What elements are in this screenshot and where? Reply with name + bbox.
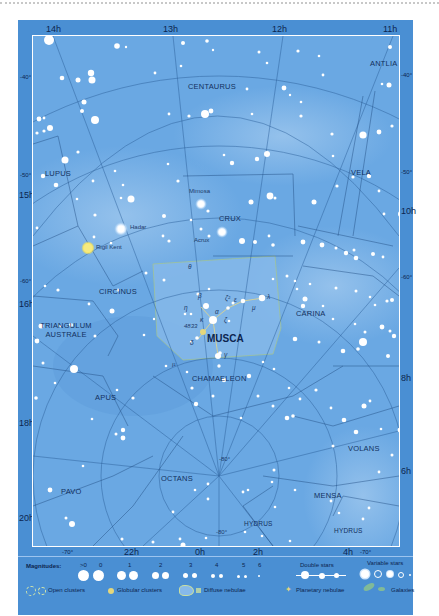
variable-star-icon-2 (374, 570, 382, 578)
variable-star-icon-5 (409, 574, 411, 576)
ra-label: 12h (272, 24, 287, 34)
ra-tick-12h: 12h (272, 24, 287, 34)
mag-dot-1b (129, 571, 138, 580)
constellation-mensa: MENSA (314, 491, 342, 500)
diffuse-nebula-icon-small (196, 588, 201, 593)
legend-mag-5: 5 (242, 562, 245, 568)
dec-tick-right-40: -40° (401, 72, 412, 78)
dec-tick-left-40: -40° (20, 74, 31, 80)
globular-cluster-icon (108, 588, 114, 594)
legend-open-clusters: Open clusters (48, 587, 85, 593)
dec-80-center: -80° (219, 456, 230, 462)
mag-dot-4b (219, 574, 223, 578)
legend-mag-0: 0 (99, 562, 102, 568)
ra-tick-6h: 6h (401, 466, 411, 476)
musca-zeta2: ζ² (225, 294, 230, 301)
dec-tick-bottom-right-70: -70° (360, 549, 371, 555)
double-star-dot-3 (334, 573, 339, 578)
open-cluster-icon (26, 586, 36, 596)
musca-alpha: α (215, 308, 219, 315)
dec-tick-left-50: -50° (20, 172, 31, 178)
legend-mag-4: 4 (215, 562, 218, 568)
legend-mag-gt0: >0 (80, 562, 87, 568)
constellation-antlia: ANTLIA (370, 59, 397, 68)
legend-mag-6: 6 (258, 562, 261, 568)
constellation-octans: OCTANS (161, 474, 193, 483)
mag-dot-3b (192, 573, 197, 578)
ngc-4833-label: 4833 (184, 323, 197, 329)
variable-star-icon-4 (398, 572, 404, 578)
dec-tick-bottom-left-70: -70° (62, 549, 73, 555)
ra-label: 14h (46, 24, 61, 34)
legend-galaxies: Galaxies (391, 587, 414, 593)
constellation-volans: VOLANS (348, 444, 380, 453)
star-label-mimosa: Mimosa (189, 188, 210, 194)
musca-beta: β (198, 292, 202, 299)
dec-tick-right-50: -50° (401, 169, 412, 175)
constellation-apus: APUS (95, 393, 116, 402)
legend-diffuse-nebulae: Diffuse nebulae (204, 587, 246, 593)
legend-mag-3: 3 (189, 562, 192, 568)
variable-star-icon-3 (387, 571, 393, 577)
musca-eta: η (184, 304, 188, 311)
constellation-hydrus-1: HYDRUS (244, 520, 273, 527)
musca-gamma: γ (224, 351, 227, 358)
constellation-carina: CARINA (296, 309, 326, 318)
mag-dot-2b (162, 572, 169, 579)
mag-dot-3a (183, 573, 188, 578)
star-label-rigil-kent: Rigil Kent (96, 244, 122, 250)
musca-zeta: ζ (224, 316, 227, 323)
constellation-chamaeleon: CHAMAELEON (192, 374, 247, 383)
mag-dot-gt0 (78, 570, 89, 581)
constellation-pavo: PAVO (61, 487, 82, 496)
musca-delta: δ (190, 339, 194, 346)
ra-tick-20h: 20h (19, 513, 34, 523)
ngc-4833-cluster (200, 329, 206, 335)
ra-tick-18h: 18h (19, 418, 34, 428)
constellation-musca: MUSCA (207, 333, 244, 344)
dec-80-bottom: -80° (216, 529, 227, 535)
galaxy-icon-small (378, 587, 385, 591)
legend-double-stars: Double stars (300, 562, 334, 568)
double-star-dot-1 (301, 571, 309, 579)
mag-dot-4a (211, 574, 215, 578)
legend-mag-1: 1 (128, 562, 131, 568)
mag-dot-1a (117, 571, 126, 580)
ra-tick-15h: 15h (19, 190, 34, 200)
legend-magnitudes-label: Magnitudes: (26, 563, 61, 569)
double-star-dot-2 (319, 573, 325, 579)
legend-variable-stars: Variable stars (367, 560, 403, 566)
constellation-circinus: CIRCINUS (99, 287, 137, 296)
galaxy-icon (362, 581, 375, 592)
legend-mag-2: 2 (159, 562, 162, 568)
musca-lambda: λ (267, 293, 270, 300)
ra-tick-8h: 8h (401, 373, 411, 383)
ra-label: 13h (163, 24, 178, 34)
ra-label: 11h (383, 24, 397, 34)
musca-theta: θ (188, 263, 192, 270)
mag-dot-6 (258, 575, 260, 577)
ra-tick-16h: 16h (19, 299, 34, 309)
musca-kappa: κ (200, 316, 203, 323)
ra-tick-10h: 10h (401, 206, 416, 216)
open-cluster-icon-small (38, 587, 46, 595)
star-label-hadar: Hadar (130, 224, 146, 230)
mag-dot-5b (244, 575, 247, 578)
musca-mu: μ (252, 304, 256, 311)
musca-iota: ι¹ (172, 361, 176, 368)
mag-dot-2a (152, 572, 159, 579)
sky-map-svg (33, 36, 399, 546)
ra-tick-11h: 11h (383, 24, 397, 34)
constellation-triangulum-australe: TRIANGULUM AUSTRALE (36, 321, 96, 339)
diffuse-nebula-icon (179, 585, 194, 596)
dec-tick-left-60: -60° (20, 278, 31, 284)
page-dotted-border (0, 2, 439, 4)
star-chart-map: CENTAURUS ANTLIA LUPUS VELA CRUX CIRCINU… (33, 36, 399, 546)
legend-planetary-nebulae: Planetary nebulae (296, 587, 344, 593)
constellation-vela: VELA (351, 168, 371, 177)
constellation-centaurus: CENTAURUS (188, 82, 236, 91)
planetary-nebula-icon: ✦ (285, 586, 292, 593)
mag-dot-0 (93, 570, 104, 581)
star-label-acrux: Acrux (194, 237, 209, 243)
variable-star-icon-1 (361, 570, 369, 578)
